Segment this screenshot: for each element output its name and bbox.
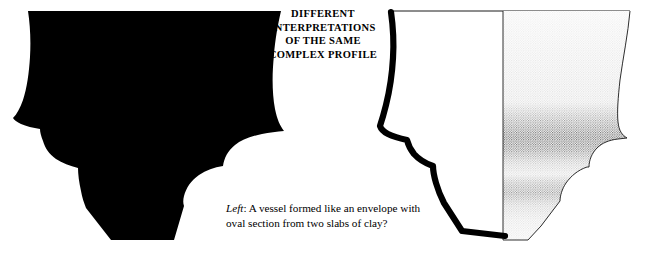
title-line-4: COMPLEX PROFILE	[255, 48, 391, 62]
caption-line-1: Left: A vessel formed like an envelope w…	[226, 201, 434, 216]
title-line-3: OF THE SAME	[255, 34, 391, 48]
title-line-2: INTERPRETATIONS	[255, 21, 391, 35]
figure-caption: Left: A vessel formed like an envelope w…	[226, 201, 434, 230]
caption-line-1-rest: A vessel formed like an envelope with	[247, 202, 421, 214]
caption-line-2: oval section from two slabs of clay?	[226, 216, 434, 231]
title-line-1: DIFFERENT	[255, 7, 391, 21]
figure-title: DIFFERENT INTERPRETATIONS OF THE SAME CO…	[255, 7, 391, 61]
stipple-shading	[500, 8, 636, 244]
caption-lead-label: Left	[226, 202, 243, 214]
